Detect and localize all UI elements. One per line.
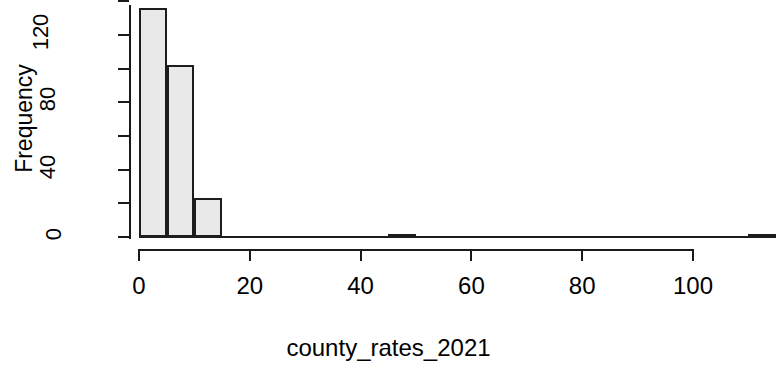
- histogram-plot: Frequency 04080120 020406080100 county_r…: [0, 0, 777, 366]
- histogram-bar: [194, 198, 222, 237]
- x-axis-tick-label: 100: [653, 272, 733, 300]
- histogram-bar: [167, 65, 195, 237]
- x-axis-tick: [360, 249, 362, 261]
- x-axis-tick: [470, 249, 472, 261]
- x-axis-tick-label: 80: [542, 272, 622, 300]
- x-axis-line: [139, 249, 693, 251]
- x-axis-tick: [249, 249, 251, 261]
- x-axis-tick: [692, 249, 694, 261]
- x-axis-tick: [138, 249, 140, 261]
- histogram-bar: [139, 8, 167, 237]
- x-axis-title: county_rates_2021: [0, 334, 777, 362]
- histogram-baseline: [139, 236, 776, 238]
- x-axis-tick-label: 60: [431, 272, 511, 300]
- x-axis-tick-label: 20: [210, 272, 290, 300]
- x-axis-tick: [581, 249, 583, 261]
- x-axis-tick-label: 0: [99, 272, 179, 300]
- x-axis-tick-label: 40: [321, 272, 401, 300]
- histogram-bars: [0, 0, 777, 366]
